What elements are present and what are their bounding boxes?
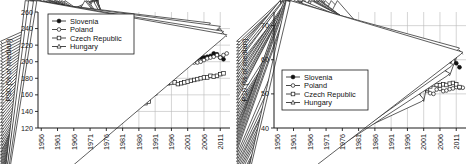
x-tick-label: 1971 xyxy=(86,134,95,150)
x-tick-label: 1961 xyxy=(53,134,62,150)
data-point xyxy=(218,56,222,60)
legend-marker-poland xyxy=(57,28,61,32)
y-tick-label: 240 xyxy=(21,24,33,33)
x-tick-label: 1971 xyxy=(322,134,331,150)
y-tick-label: 140 xyxy=(21,107,33,116)
x-tick-label: 1976 xyxy=(102,134,111,150)
y-tick-label: 50 xyxy=(261,89,269,98)
x-tick-label: 1976 xyxy=(338,134,347,150)
y-tick-label: 40 xyxy=(261,124,269,133)
y-tick-label: 260 xyxy=(21,8,33,17)
x-tick-label: 2001 xyxy=(183,134,192,150)
chart-svg-p90-panel: 1201401601802002202402601956196119661971… xyxy=(0,0,236,164)
x-tick-label: 1966 xyxy=(306,134,315,150)
data-point xyxy=(215,53,219,57)
x-tick-label: 1996 xyxy=(403,134,412,150)
y-tick-label: 220 xyxy=(21,41,33,50)
x-tick-label: 1986 xyxy=(135,134,144,150)
y-tick-label: 180 xyxy=(21,74,33,83)
x-tick-label: 2011 xyxy=(216,134,225,149)
x-tick-label: 1981 xyxy=(118,134,127,150)
legend-label-hungary: Hungary xyxy=(70,42,98,51)
legend-marker-poland xyxy=(291,84,295,88)
x-tick-label: 1981 xyxy=(354,134,363,150)
y-tick-label: 160 xyxy=(21,90,33,99)
legend-marker-slovenia xyxy=(291,75,295,79)
x-tick-label: 1996 xyxy=(167,134,176,150)
data-point xyxy=(222,72,226,76)
data-point xyxy=(458,65,462,69)
y-tick-label: 60 xyxy=(261,55,269,64)
x-tick-label: 1966 xyxy=(70,134,79,150)
x-tick-label: 2006 xyxy=(436,134,445,150)
legend-label-hungary: Hungary xyxy=(304,98,332,107)
x-tick-label: 2011 xyxy=(452,134,461,149)
y-axis-title: P10 (% of median) xyxy=(240,38,249,101)
y-tick-label: 120 xyxy=(21,124,33,133)
data-point xyxy=(458,85,462,89)
figure-two-panel-line-charts: 1201401601802002202402601956196119661971… xyxy=(0,0,472,164)
chart-panel-p90: 1201401601802002202402601956196119661971… xyxy=(0,0,236,164)
x-tick-label: 1956 xyxy=(273,134,282,150)
x-tick-label: 2006 xyxy=(200,134,209,150)
data-point xyxy=(225,52,229,56)
x-tick-label: 1961 xyxy=(289,134,298,150)
y-axis-title: P90 (% of median) xyxy=(4,38,13,101)
chart-svg-p10-panel: 4050607019561961196619711976198119861991… xyxy=(236,0,472,164)
legend-marker-slovenia xyxy=(57,19,61,23)
chart-panel-p10: 4050607019561961196619711976198119861991… xyxy=(236,0,472,164)
y-tick-label: 200 xyxy=(21,57,33,66)
x-tick-label: 1991 xyxy=(387,134,396,150)
x-tick-label: 1986 xyxy=(371,134,380,150)
legend: SloveniaPolandCzech RepublicHungary xyxy=(48,14,134,54)
x-tick-label: 1956 xyxy=(37,134,46,150)
data-point xyxy=(432,92,436,96)
x-tick-label: 2001 xyxy=(419,134,428,150)
y-tick-label: 70 xyxy=(261,21,269,30)
legend-marker-czech-republic xyxy=(57,36,61,40)
legend: SloveniaPolandCzech RepublicHungary xyxy=(282,70,368,110)
legend-marker-czech-republic xyxy=(291,92,295,96)
x-tick-label: 1991 xyxy=(151,134,160,150)
